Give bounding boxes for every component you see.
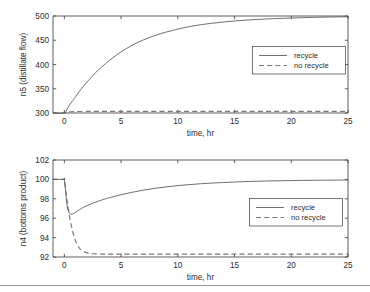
y-ticklabels-bottom: 92949698100102 <box>35 156 49 262</box>
x-axis-label-bottom: time, hr <box>187 273 215 282</box>
y-axis-label-top: n5 (distillate flow) <box>19 33 28 97</box>
legend-label-no-recycle-top: no recycle <box>294 61 329 70</box>
chart-panel-bottom: 0510152025 92949698100102 time, hr n4 (b… <box>0 146 370 292</box>
y-tick-label: 450 <box>35 36 49 45</box>
chart-panel-top: 0510152025 300350400450500 time, hr n5 (… <box>0 0 370 146</box>
x-tick-label: 20 <box>287 117 297 126</box>
legend-label-no-recycle-bottom: no recycle <box>291 213 326 222</box>
x-tick-label: 0 <box>62 261 67 270</box>
chart-svg-top: 0510152025 300350400450500 time, hr n5 (… <box>0 0 370 146</box>
x-tick-label: 25 <box>343 117 353 126</box>
y-tick-label: 96 <box>40 214 50 223</box>
y-tick-label: 102 <box>35 156 49 165</box>
y-tick-label: 92 <box>40 253 50 262</box>
x-tick-label: 10 <box>173 261 183 270</box>
x-tick-label: 25 <box>343 261 353 270</box>
x-axis-label-top: time, hr <box>187 129 215 138</box>
x-tick-label: 10 <box>173 117 183 126</box>
x-tick-label: 5 <box>119 261 124 270</box>
x-tick-label: 15 <box>230 117 240 126</box>
y-tick-label: 400 <box>35 61 49 70</box>
y-tick-label: 350 <box>35 85 49 94</box>
y-tick-label: 94 <box>40 234 50 243</box>
y-tick-label: 500 <box>35 12 49 21</box>
x-tick-label: 5 <box>119 117 124 126</box>
x-tick-label: 0 <box>62 117 67 126</box>
x-ticklabels-top: 0510152025 <box>62 117 353 126</box>
y-tick-label: 100 <box>35 175 49 184</box>
chart-svg-bottom: 0510152025 92949698100102 time, hr n4 (b… <box>0 146 370 292</box>
y-axis-label-bottom: n4 (bottoms product) <box>19 170 28 246</box>
x-tick-label: 15 <box>230 261 240 270</box>
legend-top[interactable]: recycle no recycle <box>253 47 346 75</box>
y-ticklabels-top: 300350400450500 <box>35 12 49 118</box>
x-tick-label: 20 <box>287 261 297 270</box>
y-tick-label: 300 <box>35 109 49 118</box>
y-tick-label: 98 <box>40 195 50 204</box>
figure-container: 0510152025 300350400450500 time, hr n5 (… <box>0 0 370 292</box>
legend-bottom[interactable]: recycle no recycle <box>250 199 343 227</box>
x-ticklabels-bottom: 0510152025 <box>62 261 353 270</box>
footer-separator-rule <box>0 285 370 286</box>
legend-label-recycle-bottom: recycle <box>291 203 315 212</box>
legend-label-recycle-top: recycle <box>294 51 318 60</box>
